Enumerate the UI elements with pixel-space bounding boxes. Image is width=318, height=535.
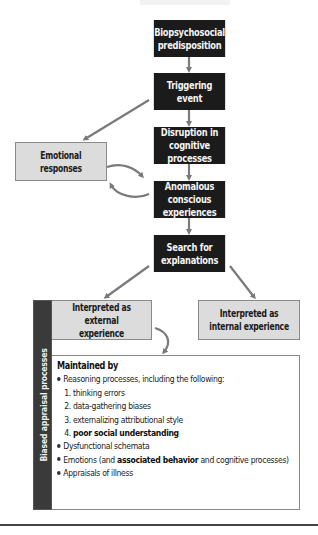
bullet-text: Dysfunctional schemata (63, 440, 149, 451)
box-label-line1: Emotional (40, 149, 82, 162)
box-label-line2: internal experience (209, 320, 289, 333)
box-label-line2: experiences (157, 206, 223, 219)
box-label-line1: Disruption in (157, 126, 223, 139)
box-label-line2: responses (40, 162, 82, 175)
biased-appraisal-sidebar: Biased appraisal processes (33, 300, 52, 510)
box-label-line1: Anomalous conscious (157, 180, 223, 206)
maintained-heading: Maintained by (57, 359, 275, 372)
anomalous-conscious-experiences-box: Anomalous consciousexperiences (154, 181, 225, 218)
box-label-line2: external experience (61, 314, 141, 340)
interpreted-external-box: Interpreted asexternal experience (52, 300, 152, 340)
bullet-appraisals: Appraisals of illness (57, 466, 275, 479)
box-label-line1: Interpreted as (61, 301, 141, 314)
bullet-reasoning: Reasoning processes, including the follo… (57, 372, 275, 385)
sidebar-label: Biased appraisal processes (37, 348, 48, 461)
box-label-line1: Biopsychosocial (154, 26, 225, 39)
bullet-text: Emotions (and (63, 454, 117, 465)
sub-item-data-gathering: 2. data-gathering biases (57, 399, 275, 412)
bullet-bold-text: associated behavior (117, 454, 198, 465)
box-label-line2: explanations (161, 254, 218, 267)
box-label-line2: predisposition (154, 39, 225, 52)
triggering-event-box: Triggering event (154, 73, 225, 110)
sub-item-thinking-errors: 1. thinking errors (57, 386, 275, 399)
disruption-cognitive-processes-box: Disruption incognitive processes (154, 127, 225, 164)
interpreted-internal-box: Interpreted asinternal experience (198, 300, 300, 340)
sub-bold-text: poor social understanding (73, 427, 179, 438)
sub-item-externalizing: 3. externalizing attributional style (57, 413, 275, 426)
bullet-icon (57, 377, 61, 381)
box-label-line1: Interpreted as (209, 307, 289, 320)
search-for-explanations-box: Search forexplanations (154, 235, 225, 272)
bullet-schemata: Dysfunctional schemata (57, 439, 275, 452)
emotional-responses-box: Emotionalresponses (15, 142, 107, 181)
box-label-line2: cognitive processes (157, 139, 223, 165)
bullet-icon (57, 457, 61, 461)
sub-number: 4. (64, 427, 73, 438)
bullet-icon (57, 444, 61, 448)
bullet-icon (57, 471, 61, 475)
biopsychosocial-predisposition-box: Biopsychosocialpredisposition (154, 20, 225, 57)
bullet-text: Appraisals of illness (63, 467, 133, 478)
box-label-line1: Triggering event (157, 79, 223, 105)
bullet-text-suffix: and cognitive processes) (198, 454, 288, 465)
maintained-by-box: Maintained by Reasoning processes, inclu… (52, 355, 300, 510)
box-label-line1: Search for (161, 241, 218, 254)
bullet-emotions: Emotions (and associated behavior and co… (57, 453, 275, 466)
bullet-text: Reasoning processes, including the follo… (63, 373, 224, 384)
sub-item-poor-social: 4. poor social understanding (57, 426, 275, 439)
bottom-divider (0, 524, 318, 526)
